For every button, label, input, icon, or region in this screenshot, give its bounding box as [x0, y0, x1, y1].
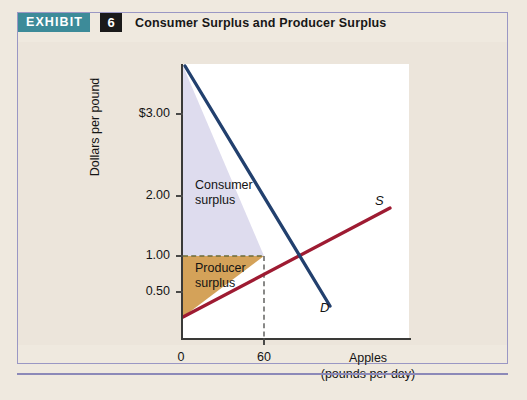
x-axis-title-line1: Apples	[318, 350, 418, 366]
y-tick-050	[176, 291, 183, 293]
y-tick-label-100: 1.00	[104, 248, 170, 262]
supply-curve-label: S	[375, 193, 384, 208]
x-axis-line	[181, 338, 411, 340]
consumer-surplus-label-line1: Consumer	[195, 178, 253, 193]
exhibit-bottom-rule	[17, 373, 508, 375]
y-tick-label-200: 2.00	[104, 188, 170, 202]
producer-surplus-label-line2: surplus	[195, 276, 235, 291]
y-tick-200	[176, 195, 183, 197]
y-tick-300	[176, 113, 183, 115]
exhibit-number-badge: 6	[100, 13, 122, 32]
y-axis-line	[181, 64, 183, 340]
chart-panel: $3.00 2.00 1.00 0.50 Dollars per pound 0…	[18, 42, 507, 345]
exhibit-page: EXHIBIT 6 Consumer Surplus and Producer …	[0, 0, 527, 400]
exhibit-title: Consumer Surplus and Producer Surplus	[135, 16, 386, 30]
x-tick-label-0: 0	[163, 350, 199, 364]
page-top-margin	[0, 0, 527, 4]
demand-curve-label: D	[320, 300, 329, 315]
consumer-surplus-region	[183, 66, 264, 256]
exhibit-header: EXHIBIT 6 Consumer Surplus and Producer …	[18, 13, 386, 32]
y-axis-title: Dollars per pound	[88, 47, 102, 207]
x-tick-label-60: 60	[246, 350, 282, 364]
exhibit-tag: EXHIBIT	[18, 13, 90, 32]
y-tick-label-050: 0.50	[104, 284, 170, 298]
consumer-surplus-label-line2: surplus	[195, 193, 235, 208]
producer-surplus-label-line1: Producer	[195, 261, 246, 276]
y-tick-label-300: $3.00	[104, 106, 170, 120]
x-tick-60	[263, 338, 265, 345]
y-tick-100	[176, 255, 183, 257]
